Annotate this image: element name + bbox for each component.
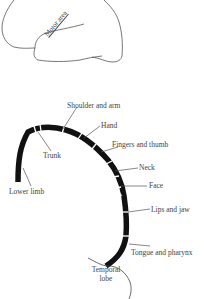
- label-lower-limb: Lower limb: [9, 188, 44, 196]
- label-trunk: Trunk: [43, 152, 61, 160]
- label-hand: Hand: [101, 122, 117, 130]
- label-tongue-and-pharynx: Tongue and pharynx: [131, 249, 193, 257]
- motor-cortex-diagram: Motor area Shoulder and arm Hand Fingers…: [0, 0, 204, 299]
- label-temporal-lobe: Temporal lobe: [87, 266, 125, 283]
- temporal-lobe-line2: lobe: [87, 275, 125, 284]
- label-shoulder-and-arm: Shoulder and arm: [67, 102, 120, 110]
- label-face: Face: [149, 182, 163, 190]
- label-lips-and-jaw: Lips and jaw: [151, 206, 190, 214]
- label-fingers-and-thumb: Fingers and thumb: [112, 141, 168, 149]
- label-neck: Neck: [139, 164, 155, 172]
